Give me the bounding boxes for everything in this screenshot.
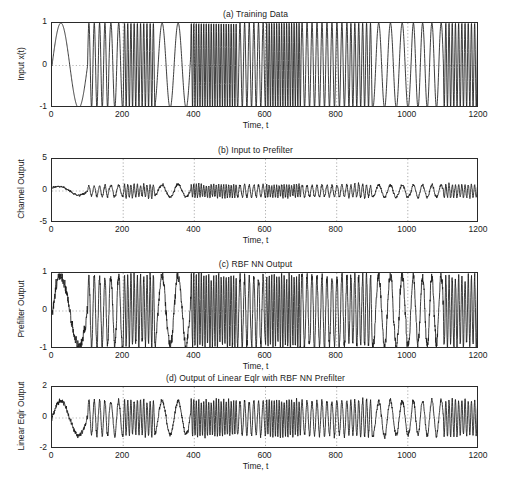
- panel-a-xtick: 200: [102, 109, 142, 119]
- panel-b-ytick: 0: [25, 184, 47, 194]
- panel-a-trace: [52, 23, 478, 107]
- panel-a-xtick: 600: [245, 109, 285, 119]
- panel-b-xtick: 200: [102, 224, 142, 234]
- panel-d-xtick: 200: [102, 450, 142, 460]
- panel-d-ytick: 0: [25, 411, 47, 421]
- panel-b-ytick: 5: [25, 152, 47, 162]
- figure-canvas: (a) Training Data Input x(t) Time, t 10-…: [0, 0, 511, 478]
- panel-d-xtick: 0: [31, 450, 71, 460]
- panel-d-xtick: 1200: [458, 450, 498, 460]
- panel-b-xtick: 1200: [458, 224, 498, 234]
- panel-b-xtick: 800: [316, 224, 356, 234]
- panel-c-xtick: 600: [245, 350, 285, 360]
- panel-d-plot-area: [51, 386, 478, 448]
- panel-a-xtick: 0: [31, 109, 71, 119]
- panel-a-xtick: 400: [173, 109, 213, 119]
- panel-a-ytick: 0: [25, 59, 47, 69]
- panel-b-trace: [52, 159, 478, 222]
- panel-c-xtick: 800: [316, 350, 356, 360]
- panel-a-xtick: 1000: [387, 109, 427, 119]
- panel-c-xtick: 1200: [458, 350, 498, 360]
- panel-a-xlabel: Time, t: [0, 120, 511, 130]
- panel-b-xlabel: Time, t: [0, 235, 511, 245]
- panel-a-title: (a) Training Data: [0, 9, 511, 19]
- panel-c-xtick: 0: [31, 350, 71, 360]
- panel-a-xtick: 1200: [458, 109, 498, 119]
- panel-d-xtick: 600: [245, 450, 285, 460]
- panel-d-trace: [52, 387, 478, 448]
- panel-c-ytick: 1: [25, 266, 47, 276]
- panel-c-ytick: 0: [25, 304, 47, 314]
- panel-b-xtick: 600: [245, 224, 285, 234]
- panel-b-title: (b) Input to Prefilter: [0, 145, 511, 155]
- panel-b-xtick: 0: [31, 224, 71, 234]
- panel-d-xlabel: Time, t: [0, 461, 511, 471]
- panel-d-ytick: 2: [25, 380, 47, 390]
- panel-d-xtick: 1000: [387, 450, 427, 460]
- panel-d-title: (d) Output of Linear Eqlr with RBF NN Pr…: [0, 373, 511, 383]
- panel-c-title: (c) RBF NN Output: [0, 259, 511, 269]
- panel-c-xtick: 200: [102, 350, 142, 360]
- panel-c-plot-area: [51, 272, 478, 348]
- panel-b-xtick: 1000: [387, 224, 427, 234]
- panel-c-trace: [52, 273, 478, 348]
- panel-a-xtick: 800: [316, 109, 356, 119]
- panel-c-xtick: 400: [173, 350, 213, 360]
- panel-d-xtick: 800: [316, 450, 356, 460]
- panel-c-xtick: 1000: [387, 350, 427, 360]
- panel-d-xtick: 400: [173, 450, 213, 460]
- panel-c-xlabel: Time, t: [0, 361, 511, 371]
- panel-b-plot-area: [51, 158, 478, 222]
- panel-a-ytick: 1: [25, 16, 47, 26]
- panel-b-xtick: 400: [173, 224, 213, 234]
- panel-a-plot-area: [51, 22, 478, 107]
